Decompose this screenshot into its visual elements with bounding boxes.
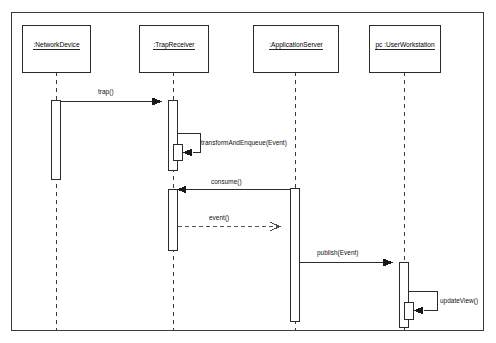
- activation-application-server: [291, 189, 300, 322]
- message-label-publish: publish(Event): [317, 249, 359, 257]
- participant-box-application-server[interactable]: [254, 26, 339, 73]
- message-label-update-view: updateView(): [440, 297, 478, 305]
- message-label-consume: consume(): [211, 178, 242, 186]
- message-label-trap: trap(): [98, 88, 114, 96]
- diagram-svg: [0, 0, 496, 343]
- participant-box-network-device[interactable]: [23, 26, 91, 73]
- participant-box-trap-receiver[interactable]: [140, 26, 209, 73]
- message-label-event: event(): [209, 214, 229, 222]
- message-label-transform-and-enqueue: transformAndEnqueue(Event): [201, 139, 287, 147]
- sequence-diagram-canvas: :NetworkDevice :TrapReceiver :Applicatio…: [0, 0, 496, 343]
- activation-user-workstation-nested: [405, 303, 414, 320]
- participant-box-user-workstation[interactable]: [370, 26, 441, 73]
- activation-trap-receiver-nested: [174, 145, 183, 161]
- activation-trap-receiver-2: [169, 190, 178, 251]
- activation-network-device: [52, 101, 61, 180]
